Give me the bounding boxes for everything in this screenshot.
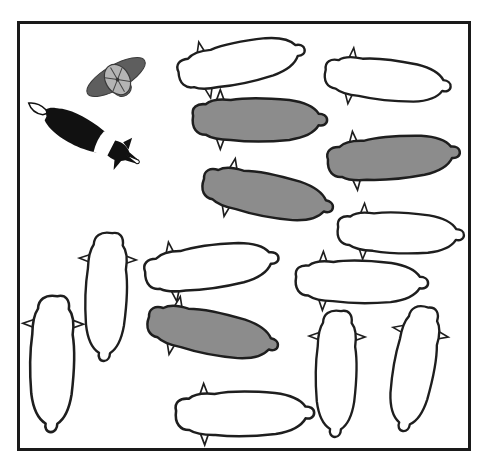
sheep-flock — [21, 21, 465, 445]
sheep-gray — [325, 122, 462, 192]
sheep-white — [173, 21, 310, 103]
sheep-white — [307, 310, 365, 437]
sheep-white — [21, 295, 84, 432]
sheep-gray — [197, 153, 338, 236]
illustration — [0, 0, 488, 469]
sheep-white — [376, 302, 453, 436]
sheep-white — [76, 232, 137, 362]
sheep-white — [175, 381, 314, 445]
sheepdog — [19, 89, 148, 179]
sheep-gray — [142, 291, 283, 374]
sheep-gray — [193, 90, 327, 150]
shepherd — [81, 49, 155, 111]
sheep-white — [295, 251, 428, 312]
sheep-white — [322, 45, 454, 114]
sheep-white — [337, 202, 465, 262]
sheep-white — [141, 227, 282, 305]
